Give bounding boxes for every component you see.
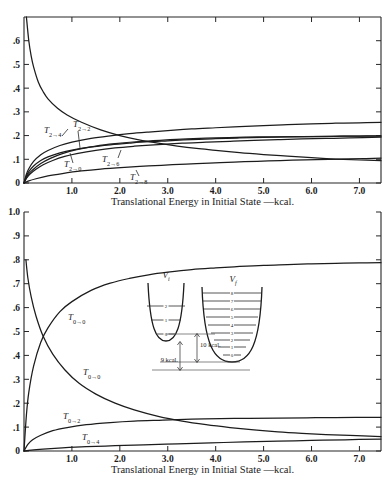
- inset-potential-well-diagram: Vi012Vf01234567810 kcal.9 kcal.: [147, 270, 262, 371]
- final-level-number: 3: [231, 331, 234, 336]
- final-level-number: 1: [231, 345, 234, 350]
- bottom-plot-panel: 0.1.2.3.4.5.6.7.8.91.01.02.03.04.05.06.0…: [0, 205, 392, 477]
- final-well-label: Vf: [229, 274, 238, 286]
- bottom-xaxis-title: Translational Energy in Initial State —k…: [111, 464, 294, 475]
- top-xtick-label: 6.0: [306, 186, 318, 196]
- curve-T_{0→4}: [24, 439, 381, 451]
- initial-level-number: 0: [165, 332, 168, 337]
- top-xtick-label: 5.0: [258, 186, 270, 196]
- bottom-ytick-label: .3: [13, 375, 20, 385]
- curve-T_{2→6}: [24, 137, 381, 183]
- top-ytick-label: .2: [13, 131, 20, 141]
- final-level-number: 0: [231, 353, 234, 358]
- bottom-ytick-label: .1: [13, 423, 20, 433]
- bottom-xtick-label: 2.0: [114, 454, 126, 464]
- bottom-axis-frame: [24, 212, 381, 451]
- curve-label-T04: T0→4: [82, 432, 99, 445]
- label-leader: [78, 131, 80, 148]
- top-ytick-label: .1: [13, 155, 20, 165]
- top-curve-labels: T2→4T2→2T2→0T2→6T2→8: [44, 119, 147, 185]
- curve-T_{0→0}-falling: [26, 260, 381, 437]
- top-ytick-label: .5: [13, 60, 20, 70]
- bottom-plot-svg: 0.1.2.3.4.5.6.7.8.91.01.02.03.04.05.06.0…: [0, 205, 392, 477]
- bottom-xtick-label: 7.0: [353, 454, 365, 464]
- final-level-number: 6: [231, 307, 234, 312]
- gap-9kcal-arrow: [177, 341, 182, 370]
- label-leader: [136, 170, 139, 176]
- top-curves: [24, 17, 381, 183]
- top-ytick-label: 0: [15, 178, 20, 188]
- curve-label-T22: T2→2: [73, 119, 90, 132]
- top-xtick-label: 2.0: [114, 186, 126, 196]
- final-level-number: 8: [231, 291, 234, 296]
- top-xtick-label: 1.0: [66, 186, 78, 196]
- bottom-xtick-label: 1.0: [66, 454, 78, 464]
- bottom-ytick-label: .6: [13, 303, 20, 313]
- bottom-ytick-label: .9: [13, 231, 20, 241]
- gap-9kcal-label: 9 kcal.: [161, 356, 179, 363]
- final-level-number: 5: [231, 315, 234, 320]
- curve-label-T24: T2→4: [44, 125, 61, 138]
- bottom-curve-labels: T0→0T0→0T0→2T0→4: [63, 312, 100, 445]
- bottom-ytick-label: .8: [13, 255, 20, 265]
- bottom-xtick-label: 5.0: [258, 454, 270, 464]
- gap-10kcal-label: 10 kcal.: [200, 341, 221, 348]
- bottom-xtick-label: 4.0: [210, 454, 222, 464]
- curve-label-T02: T0→2: [63, 411, 80, 424]
- label-leader: [62, 129, 68, 136]
- top-xtick-label: 3.0: [162, 186, 174, 196]
- top-xtick-label: 7.0: [353, 186, 365, 196]
- top-ytick-label: .4: [13, 84, 20, 94]
- label-leader: [118, 150, 121, 158]
- bottom-ytick-label: .2: [13, 399, 20, 409]
- top-xtick-label: 4.0: [210, 186, 222, 196]
- bottom-ytick-label: 0: [15, 446, 20, 456]
- initial-level-number: 2: [165, 304, 168, 309]
- bottom-ytick-label: .4: [13, 351, 20, 361]
- bottom-ytick-label: .5: [13, 327, 20, 337]
- bottom-axes: 0.1.2.3.4.5.6.7.8.91.01.02.03.04.05.06.0…: [8, 207, 381, 464]
- final-level-number: 2: [231, 338, 234, 343]
- top-plot-svg: 0.1.2.3.4.5.61.02.03.04.05.06.07.0T2→4T2…: [0, 0, 392, 210]
- top-plot-panel: 0.1.2.3.4.5.61.02.03.04.05.06.07.0T2→4T2…: [0, 0, 392, 210]
- initial-level-number: 1: [165, 318, 168, 323]
- bottom-xtick-label: 6.0: [306, 454, 318, 464]
- top-ytick-label: .6: [13, 36, 20, 46]
- gap-10kcal-arrow: [194, 333, 199, 362]
- top-ytick-label: .3: [13, 107, 20, 117]
- curve-label-T00: T0→0: [68, 312, 85, 325]
- bottom-ytick-label: 1.0: [8, 207, 20, 217]
- bottom-xtick-label: 3.0: [162, 454, 174, 464]
- curve-label-T00: T0→0: [83, 367, 100, 380]
- curve-label-T26: T2→6: [102, 154, 119, 167]
- bottom-ytick-label: .7: [13, 279, 20, 289]
- final-level-number: 7: [231, 299, 234, 304]
- final-level-number: 4: [231, 323, 234, 328]
